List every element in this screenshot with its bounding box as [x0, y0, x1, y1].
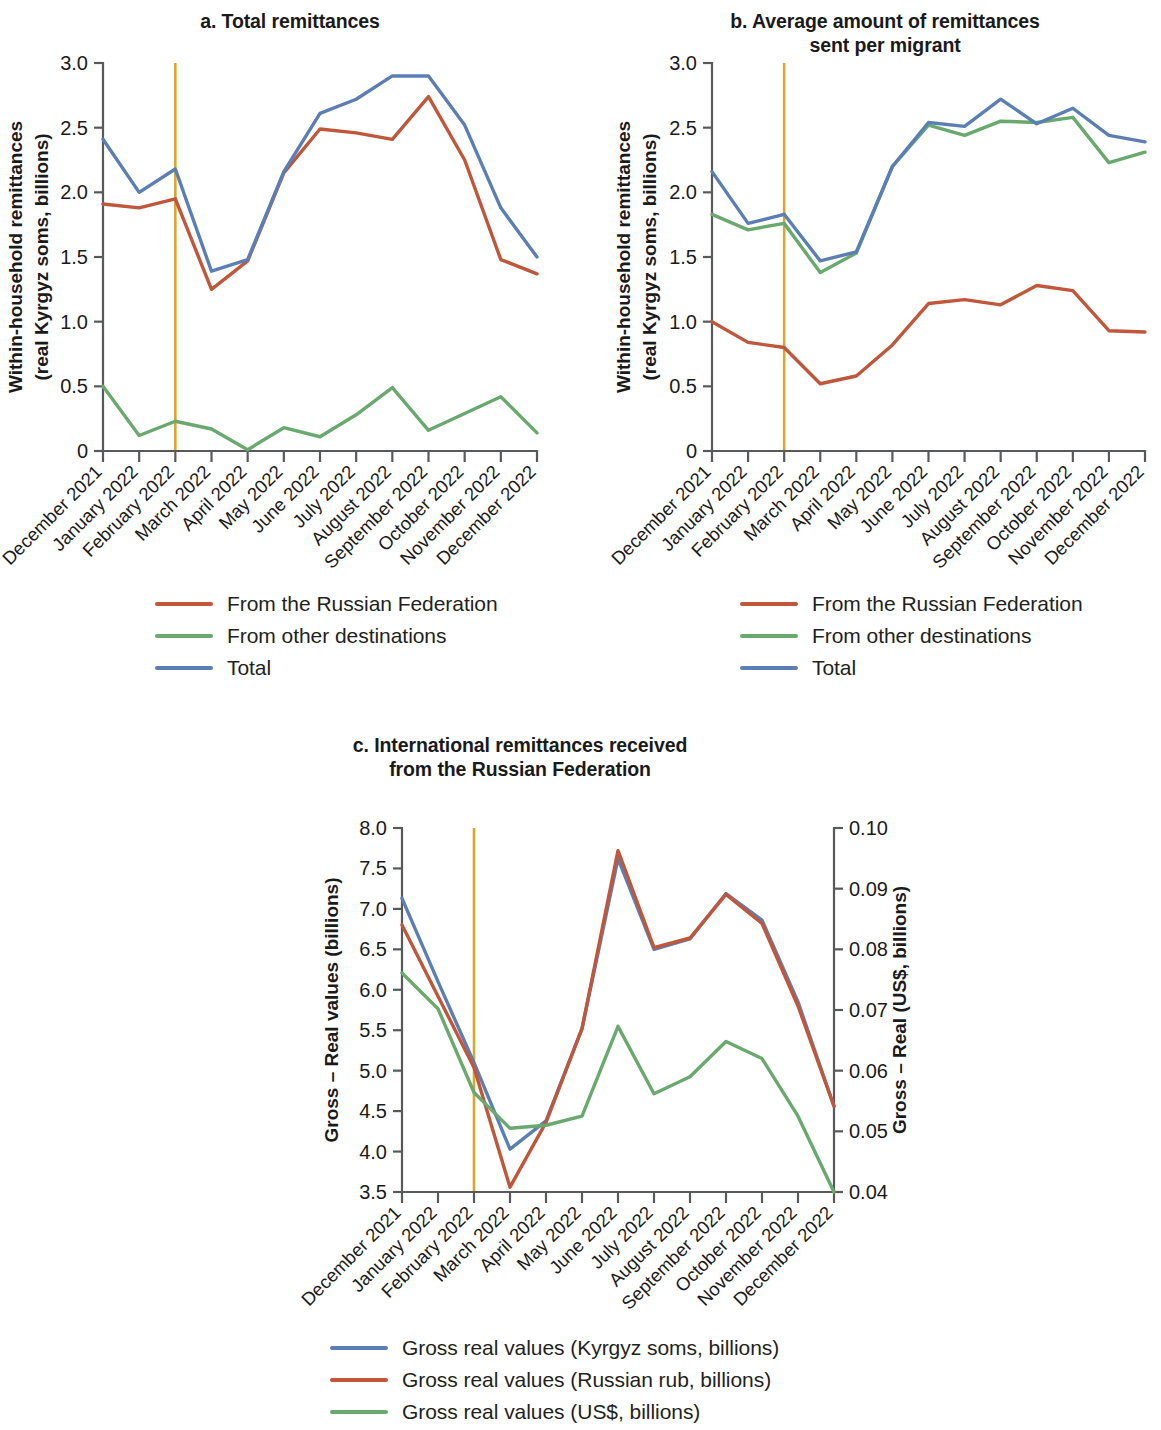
y2-axis-tick-label: 0.08 — [849, 938, 888, 960]
series-line — [402, 851, 834, 1187]
y-axis-tick-label: 4.5 — [359, 1100, 387, 1122]
panel-c-title: c. International remittances received fr… — [200, 728, 840, 782]
panel-a-total-remittances: a. Total remittances 00.51.01.52.02.53.0… — [0, 0, 580, 700]
series-line — [103, 97, 537, 290]
y-axis-tick-label: 8.0 — [359, 817, 387, 839]
series-line — [402, 859, 834, 1149]
panel-c-plot: 3.54.04.55.05.56.06.57.07.58.00.040.050.… — [0, 780, 1161, 1340]
y2-axis-tick-label: 0.10 — [849, 817, 888, 839]
y-axis-tick-label: 6.0 — [359, 979, 387, 1001]
y-axis-tick-label: 0.5 — [669, 375, 697, 397]
y2-axis-tick-label: 0.07 — [849, 999, 888, 1021]
panel-a-title-text: a. Total remittances — [200, 10, 380, 32]
series-line — [103, 386, 537, 449]
legend-label-russian-rub: Gross real values (Russian rub, billions… — [402, 1368, 771, 1392]
y-axis-tick-label: 2.0 — [60, 181, 88, 203]
y-axis-title: Within-household remittances — [5, 121, 26, 393]
legend-item: Total — [740, 652, 1083, 684]
panel-a-legend: From the Russian Federation From other d… — [155, 588, 498, 684]
y-axis-tick-label: 1.5 — [60, 246, 88, 268]
y2-axis-tick-label: 0.04 — [849, 1181, 888, 1203]
legend-label-russian-federation: From the Russian Federation — [227, 592, 498, 616]
legend-swatch-usd — [330, 1410, 388, 1414]
legend-item: From other destinations — [740, 620, 1083, 652]
legend-item: From the Russian Federation — [740, 588, 1083, 620]
series-line — [103, 76, 537, 271]
y-axis-tick-label: 1.0 — [60, 311, 88, 333]
y-axis-title: Within-household remittances — [613, 121, 634, 393]
legend-swatch-total — [740, 666, 798, 670]
y-axis-tick-label: 7.0 — [359, 898, 387, 920]
y2-axis-tick-label: 0.06 — [849, 1060, 888, 1082]
legend-swatch-russian-federation — [740, 602, 798, 606]
y-axis-tick-label: 4.0 — [359, 1141, 387, 1163]
legend-item: Gross real values (US$, billions) — [330, 1396, 779, 1428]
y-axis-tick-label: 1.0 — [669, 311, 697, 333]
y-axis-tick-label: 5.0 — [359, 1060, 387, 1082]
y-axis-tick-label: 3.5 — [359, 1181, 387, 1203]
y-axis-tick-label: 2.5 — [669, 117, 697, 139]
panel-a-title: a. Total remittances — [10, 0, 570, 34]
panel-b-legend: From the Russian Federation From other d… — [740, 588, 1083, 684]
legend-swatch-other-destinations — [740, 634, 798, 638]
panel-c-title-line2: from the Russian Federation — [200, 758, 840, 782]
series-line — [712, 117, 1145, 272]
series-line — [712, 285, 1145, 383]
y-axis-tick-label: 0 — [686, 440, 697, 462]
y-axis-tick-label: 3.0 — [669, 52, 697, 74]
legend-label-russian-federation: From the Russian Federation — [812, 592, 1083, 616]
legend-item: Total — [155, 652, 498, 684]
legend-swatch-russian-rub — [330, 1378, 388, 1382]
legend-label-usd: Gross real values (US$, billions) — [402, 1400, 700, 1424]
legend-label-other-destinations: From other destinations — [227, 624, 446, 648]
legend-label-other-destinations: From other destinations — [812, 624, 1031, 648]
panel-b-plot: 00.51.01.52.02.53.0December 2021January … — [580, 34, 1161, 634]
panel-b-title-line1: b. Average amount of remittances — [615, 10, 1155, 34]
legend-item: Gross real values (Kyrgyz soms, billions… — [330, 1332, 779, 1364]
legend-swatch-total — [155, 666, 213, 670]
panel-c-title-line1: c. International remittances received — [200, 734, 840, 758]
y-axis-tick-label: 6.5 — [359, 938, 387, 960]
legend-swatch-russian-federation — [155, 602, 213, 606]
legend-swatch-other-destinations — [155, 634, 213, 638]
panel-b-average-per-migrant: b. Average amount of remittances sent pe… — [580, 0, 1161, 700]
panel-c-international-remittances: c. International remittances received fr… — [0, 728, 1161, 1430]
series-line — [712, 99, 1145, 261]
y2-axis-tick-label: 0.09 — [849, 878, 888, 900]
y-axis-tick-label: 2.5 — [60, 117, 88, 139]
legend-label-kyrgyz-soms: Gross real values (Kyrgyz soms, billions… — [402, 1336, 779, 1360]
y2-axis-title: Gross – Real (US$, billions) — [889, 886, 910, 1134]
legend-label-total: Total — [812, 656, 856, 680]
panel-c-legend: Gross real values (Kyrgyz soms, billions… — [330, 1332, 779, 1428]
y-axis-title: Gross – Real values (billions) — [321, 877, 342, 1142]
y-axis-tick-label: 7.5 — [359, 857, 387, 879]
legend-item: From the Russian Federation — [155, 588, 498, 620]
y2-axis-tick-label: 0.05 — [849, 1120, 888, 1142]
y-axis-tick-label: 3.0 — [60, 52, 88, 74]
y-axis-tick-label: 0 — [77, 440, 88, 462]
y-axis-tick-label: 0.5 — [60, 375, 88, 397]
y-axis-tick-label: 2.0 — [669, 181, 697, 203]
y-axis-tick-label: 1.5 — [669, 246, 697, 268]
legend-item: Gross real values (Russian rub, billions… — [330, 1364, 779, 1396]
y-axis-tick-label: 5.5 — [359, 1019, 387, 1041]
y-axis-title: (real Kyrgyz soms, billions) — [639, 133, 660, 380]
legend-label-total: Total — [227, 656, 271, 680]
y-axis-title: (real Kyrgyz soms, billions) — [31, 133, 52, 380]
legend-swatch-kyrgyz-soms — [330, 1346, 388, 1350]
legend-item: From other destinations — [155, 620, 498, 652]
series-line — [402, 973, 834, 1192]
panel-a-plot: 00.51.01.52.02.53.0December 2021January … — [0, 34, 580, 634]
